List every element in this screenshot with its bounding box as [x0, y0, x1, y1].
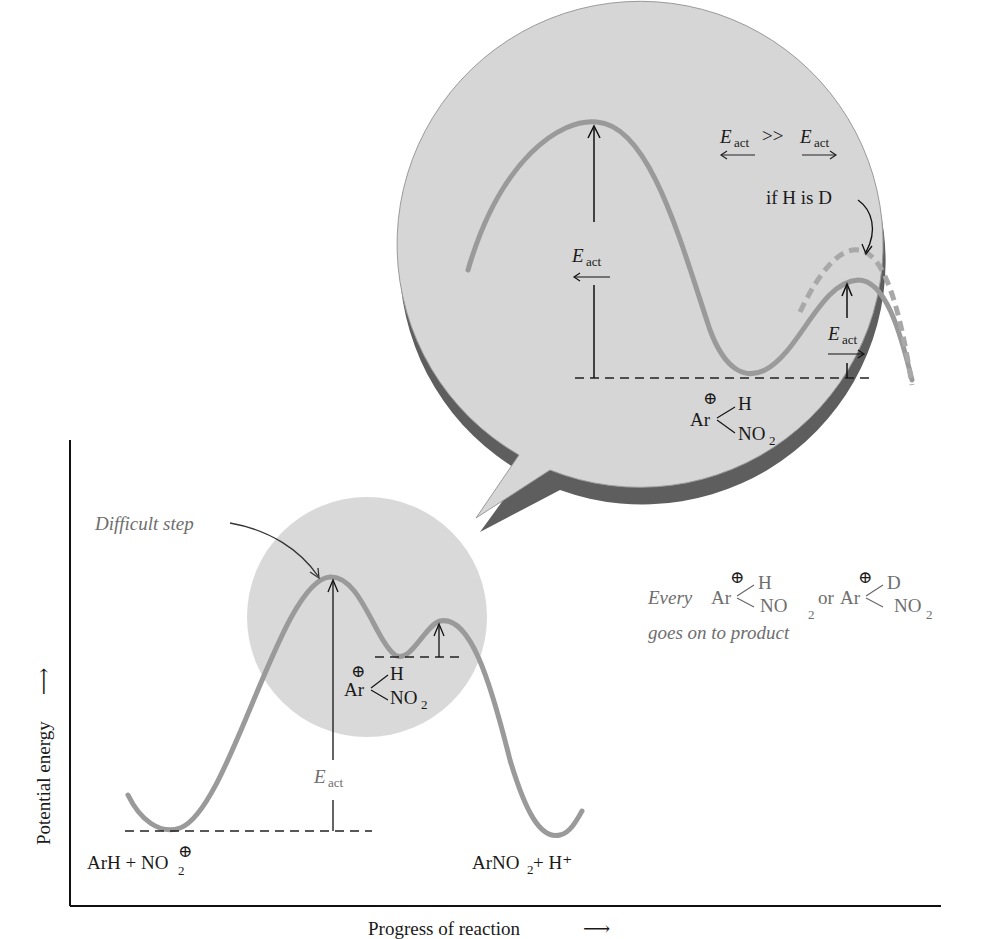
reactants-label: ArH + NO 2 ⊕ — [87, 842, 192, 878]
main-plot: E act Difficult step ⊕ Ar H NO 2 ArH + N… — [33, 440, 941, 939]
comparison-left-e: E — [719, 126, 732, 147]
svg-text:Ar: Ar — [690, 409, 711, 430]
svg-text:NO: NO — [894, 595, 921, 616]
svg-text:2: 2 — [808, 607, 815, 622]
x-axis-arrow-icon: ⟶ — [583, 918, 610, 939]
comparison-right-e: E — [799, 126, 812, 147]
svg-text:2: 2 — [769, 433, 776, 448]
svg-text:H: H — [738, 393, 752, 414]
charge-icon: ⊕ — [178, 842, 192, 861]
svg-text:H: H — [758, 572, 772, 593]
zoom-bubble: E act E act E act >> E act if H is D ⊕ A… — [397, 1, 912, 532]
caption-or: or — [818, 587, 835, 608]
svg-text:Potential energy: Potential energy — [33, 721, 54, 845]
eact-forward-e: E — [827, 323, 840, 344]
caption-every: Every — [647, 587, 693, 608]
eact-reverse-e: E — [571, 245, 584, 266]
svg-text:D: D — [887, 572, 901, 593]
svg-text:2: 2 — [926, 607, 933, 622]
comparison-left-sub: act — [734, 135, 750, 150]
eact-forward-sub: act — [842, 332, 858, 347]
caption: Every ⊕ Ar H NO 2 or ⊕ Ar D NO 2 goes on… — [647, 568, 933, 643]
svg-text:Ar: Ar — [344, 679, 365, 700]
svg-text:2: 2 — [178, 863, 185, 878]
difficult-step-label: Difficult step — [94, 513, 194, 534]
eact-reverse-sub: act — [586, 254, 602, 269]
y-axis-label: Potential energy ⟶ — [33, 668, 54, 845]
x-axis-label: Progress of reaction — [368, 918, 520, 939]
svg-text:NO: NO — [738, 423, 765, 444]
products-label: ArNO 2 + H⁺ — [472, 852, 572, 877]
highlight-circle — [247, 497, 487, 737]
charge-icon: ⊕ — [858, 568, 872, 587]
caption-structure-h: ⊕ Ar H NO 2 — [711, 568, 815, 622]
svg-text:NO: NO — [390, 687, 417, 708]
svg-text:Ar: Ar — [711, 587, 732, 608]
comparison-operator: >> — [762, 125, 783, 146]
svg-text:NO: NO — [760, 595, 787, 616]
comparison-right-sub: act — [814, 135, 830, 150]
svg-text:Ar: Ar — [840, 587, 861, 608]
svg-text:+ H⁺: + H⁺ — [533, 852, 572, 873]
svg-text:H: H — [390, 663, 404, 684]
main-eact-sub: act — [328, 775, 344, 790]
svg-text:2: 2 — [421, 697, 428, 712]
y-axis-arrow-icon: ⟶ — [33, 668, 54, 695]
caption-line2: goes on to product — [648, 622, 790, 643]
charge-icon: ⊕ — [703, 389, 717, 408]
isotope-note: if H is D — [766, 187, 832, 208]
energy-diagram: E act E act E act >> E act if H is D ⊕ A… — [0, 0, 981, 939]
caption-structure-d: ⊕ Ar D NO 2 — [840, 568, 933, 622]
main-eact-e: E — [313, 766, 326, 787]
svg-text:ArNO: ArNO — [472, 852, 520, 873]
charge-icon: ⊕ — [730, 568, 744, 587]
svg-text:ArH + NO: ArH + NO — [87, 852, 168, 873]
